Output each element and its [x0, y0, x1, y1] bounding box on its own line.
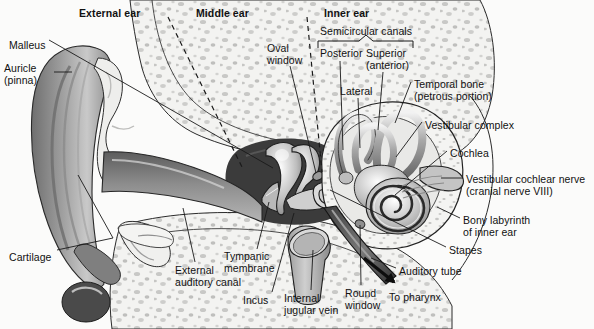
- label-to-pharynx: To pharynx: [389, 292, 441, 304]
- label-tympanic-membrane: Tympanic membrane: [224, 251, 275, 274]
- label-incus: Incus: [243, 295, 268, 307]
- label-round-window: Round window: [345, 288, 380, 311]
- label-vestibular-cochlear-nerve: Vestibular cochlear nerve (cranial nerve…: [466, 174, 585, 197]
- label-cartilage: Cartilage: [9, 252, 51, 264]
- ampulla-1: [339, 172, 353, 184]
- label-oval-window: Oval window: [267, 43, 302, 66]
- malleus-head-highlight: [275, 149, 289, 161]
- heading-inner-ear: Inner ear: [324, 8, 369, 20]
- label-internal-jugular-vein: Internal jugular vein: [284, 293, 338, 316]
- label-auricle: Auricle (pinna): [4, 63, 37, 86]
- label-posterior: Posterior: [320, 48, 362, 60]
- label-lateral: Lateral: [340, 86, 372, 98]
- label-semicircular-canals: Semicircular canals: [320, 26, 412, 38]
- heading-middle-ear: Middle ear: [196, 8, 249, 20]
- label-superior: Superior (anterior): [366, 48, 409, 71]
- ear-anatomy-figure: External earMiddle earInner ear MalleusA…: [0, 0, 594, 329]
- label-cochlea: Cochlea: [450, 148, 489, 160]
- label-auditory-tube: Auditory tube: [399, 266, 462, 278]
- label-temporal-bone: Temporal bone (petrous portion): [414, 79, 492, 102]
- label-stapes: Stapes: [449, 245, 482, 257]
- label-bony-labyrinth: Bony labyrinth of inner ear: [463, 215, 530, 238]
- label-malleus: Malleus: [9, 40, 46, 52]
- illustration-layers: [32, 0, 495, 329]
- label-vestibular-complex: Vestibular complex: [425, 120, 514, 132]
- heading-external-ear: External ear: [79, 8, 140, 20]
